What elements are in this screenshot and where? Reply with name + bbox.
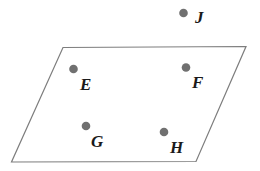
point-label-e: E [80,76,91,93]
point-dot-j [179,9,188,18]
parallelogram-outline [12,47,247,163]
point-label-j: J [195,9,204,26]
point-dot-e [69,65,78,74]
point-label-f: F [192,74,203,91]
point-dot-f [182,63,191,72]
geometry-figure: EFGHJ [0,0,260,171]
point-dots-group [69,9,190,137]
point-label-h: H [170,139,183,156]
point-dot-h [160,128,169,137]
point-label-g: G [91,133,103,150]
point-dot-g [82,122,91,131]
figure-canvas [0,0,260,171]
